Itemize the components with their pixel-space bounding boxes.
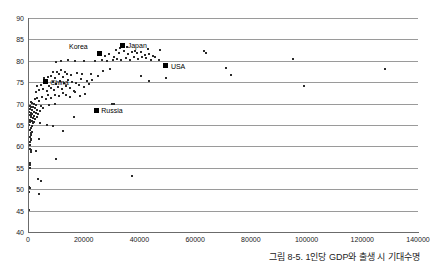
data-point [62, 76, 64, 78]
data-point [230, 74, 232, 76]
data-point [84, 93, 86, 95]
data-point [38, 138, 40, 140]
data-point [37, 178, 39, 180]
data-point [48, 104, 50, 106]
data-point [94, 60, 96, 62]
data-point [86, 80, 88, 82]
data-point [137, 58, 139, 60]
y-axis-tick-label-90: 90 [0, 15, 24, 22]
data-point [67, 59, 69, 61]
data-point [55, 158, 57, 160]
data-point [203, 50, 205, 52]
data-point [35, 91, 37, 93]
data-point [42, 107, 44, 109]
data-point [141, 56, 143, 58]
data-point [145, 57, 147, 59]
x-axis-tick-label-140000: 140000 [388, 236, 434, 244]
highlight-label-russia: Russia [101, 107, 122, 114]
data-point [225, 67, 227, 69]
data-point [140, 75, 142, 77]
data-point [144, 54, 146, 56]
data-point [148, 80, 150, 82]
data-point [116, 58, 118, 60]
data-point [57, 86, 59, 88]
data-point [148, 53, 150, 55]
data-point [29, 121, 31, 123]
data-point [133, 56, 135, 58]
y-axis-tick-label-65: 65 [0, 122, 24, 129]
data-point [46, 124, 48, 126]
data-point [52, 71, 54, 73]
gridline-y-70 [28, 104, 418, 105]
data-point [76, 72, 78, 74]
data-point [112, 59, 114, 61]
data-point [62, 92, 64, 94]
data-point [292, 58, 294, 60]
data-point [113, 103, 115, 105]
data-point [83, 86, 85, 88]
data-point [35, 150, 37, 152]
y-axis-tick-label-75: 75 [0, 79, 24, 86]
data-point [33, 111, 35, 113]
data-point [29, 167, 31, 169]
data-point [79, 95, 81, 97]
data-point [69, 96, 71, 98]
data-point [36, 116, 38, 118]
data-point [73, 116, 75, 118]
data-point [33, 121, 35, 123]
gridline-y-90 [28, 18, 418, 19]
data-point [74, 91, 76, 93]
gridline-y-85 [28, 39, 418, 40]
data-point [36, 85, 38, 87]
data-point [38, 100, 40, 102]
highlight-label-korea: Korea [69, 43, 88, 50]
data-point [53, 89, 55, 91]
data-point [70, 74, 72, 76]
gridline-y-55 [28, 168, 418, 169]
gridline-y-80 [28, 61, 418, 62]
data-point [97, 75, 99, 77]
data-point [205, 52, 207, 54]
data-point [29, 148, 31, 150]
data-point [46, 90, 48, 92]
data-point [64, 71, 66, 73]
data-point [29, 129, 31, 131]
data-point [111, 103, 113, 105]
data-point [31, 120, 33, 122]
data-point [32, 122, 34, 124]
data-point [158, 59, 160, 61]
data-point [39, 110, 41, 112]
data-point [34, 118, 36, 120]
data-point [165, 77, 167, 79]
x-axis-tick-label-120000: 120000 [332, 236, 392, 244]
data-point [54, 94, 56, 96]
data-point [40, 180, 42, 182]
data-point [81, 73, 83, 75]
data-point [159, 49, 161, 51]
data-point [60, 69, 62, 71]
data-point [80, 78, 82, 80]
x-axis-tick-label-60000: 60000 [165, 236, 225, 244]
data-point [39, 122, 41, 124]
data-point [31, 125, 33, 127]
data-point [113, 56, 115, 58]
data-point [147, 48, 149, 50]
data-point [60, 60, 62, 62]
y-axis-tick-label-60: 60 [0, 143, 24, 150]
data-point [32, 106, 34, 108]
y-axis-line [28, 18, 29, 233]
data-point [74, 60, 76, 62]
highlight-marker-korea [97, 51, 102, 56]
data-point [123, 50, 125, 52]
data-point [83, 60, 85, 62]
data-point [75, 82, 77, 84]
data-point [69, 87, 71, 89]
data-point [42, 88, 44, 90]
data-point [154, 56, 156, 58]
data-point [127, 53, 129, 55]
data-point [29, 136, 31, 138]
data-point [56, 71, 58, 73]
gridline-y-50 [28, 189, 418, 190]
data-point [32, 117, 34, 119]
highlight-marker-usa [163, 63, 168, 68]
